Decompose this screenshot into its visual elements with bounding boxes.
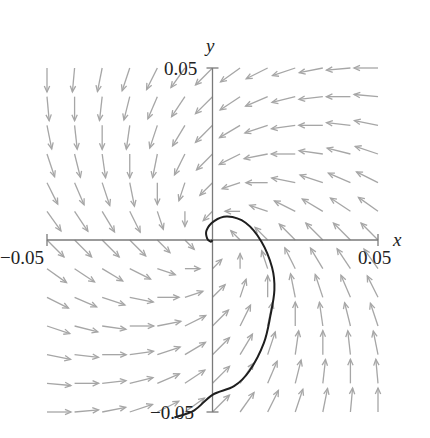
- field-arrow: [245, 125, 268, 133]
- field-arrow: [185, 370, 205, 383]
- field-arrow: [213, 366, 230, 383]
- field-arrow: [326, 94, 350, 99]
- field-arrow: [320, 331, 325, 355]
- field-arrow: [151, 154, 157, 178]
- field-arrow: [225, 209, 240, 214]
- field-arrow: [310, 248, 322, 269]
- field-arrow: [130, 349, 154, 354]
- field-arrow: [102, 269, 123, 281]
- field-arrow: [102, 326, 126, 331]
- y-axis-label: y: [204, 35, 215, 56]
- field-arrow: [157, 295, 179, 300]
- field-arrow: [47, 211, 61, 231]
- field-arrow: [70, 68, 75, 92]
- field-arrow: [75, 240, 92, 257]
- field-arrow: [130, 376, 153, 383]
- field-arrow: [123, 97, 130, 120]
- field-arrow: [299, 149, 323, 154]
- field-arrow: [47, 269, 67, 283]
- field-arrow: [47, 297, 68, 308]
- field-arrow: [213, 310, 229, 326]
- field-arrow: [295, 360, 302, 383]
- field-arrow: [322, 359, 327, 383]
- field-arrow: [306, 223, 323, 240]
- field-arrow: [47, 183, 58, 204]
- field-arrow: [357, 172, 378, 183]
- field-arrow: [102, 297, 125, 305]
- field-arrow: [44, 68, 49, 92]
- field-arrow: [271, 125, 295, 130]
- field-arrow: [221, 68, 241, 82]
- field-arrow: [130, 269, 151, 279]
- field-arrow: [272, 97, 295, 104]
- field-arrow: [196, 97, 213, 114]
- field-arrow: [102, 211, 114, 232]
- field-arrow: [178, 183, 185, 201]
- field-arrow: [358, 197, 378, 211]
- field-arrow: [315, 275, 323, 298]
- field-arrow: [185, 316, 206, 326]
- field-arrow: [219, 154, 240, 164]
- field-arrow: [295, 331, 300, 355]
- field-arrow: [246, 97, 268, 107]
- field-arrow: [250, 205, 268, 212]
- field-arrow: [75, 211, 88, 231]
- field-arrow: [174, 154, 184, 175]
- field-arrow: [121, 68, 129, 91]
- field-arrow: [102, 379, 126, 384]
- field-arrow: [272, 68, 295, 76]
- field-arrow: [185, 240, 194, 249]
- field-arrow: [300, 174, 323, 182]
- field-arrow: [349, 388, 354, 412]
- field-arrow: [47, 154, 55, 177]
- field-arrow: [271, 151, 295, 156]
- x-axis-label: x: [392, 229, 402, 250]
- field-arrow: [72, 97, 77, 121]
- field-arrow: [295, 389, 303, 412]
- field-arrow: [148, 97, 158, 119]
- field-arrow: [173, 125, 185, 146]
- field-arrow: [370, 303, 378, 326]
- field-arrow: [97, 97, 102, 121]
- y-tick-label-min: −0.05: [150, 402, 194, 423]
- field-arrow: [237, 254, 242, 269]
- field-arrow: [268, 361, 278, 383]
- field-arrow: [302, 199, 323, 211]
- field-arrow: [47, 125, 53, 149]
- field-arrow: [240, 279, 247, 297]
- field-arrow: [147, 68, 158, 89]
- field-arrow: [327, 67, 351, 72]
- x-tick-label-max: 0.05: [358, 247, 391, 268]
- field-arrow: [341, 275, 351, 297]
- field-arrow: [102, 183, 110, 206]
- field-arrow: [337, 249, 350, 269]
- field-arrow: [172, 97, 185, 117]
- field-arrow: [333, 223, 350, 240]
- field-arrow: [125, 125, 130, 149]
- field-arrow: [299, 96, 323, 101]
- field-arrow: [213, 395, 230, 412]
- field-arrow: [47, 326, 70, 334]
- field-arrow: [213, 338, 230, 355]
- field-arrow: [130, 183, 136, 207]
- field-arrow: [157, 374, 179, 384]
- field-arrow: [272, 176, 296, 182]
- field-arrow: [130, 323, 154, 328]
- field-arrow: [149, 125, 157, 148]
- field-arrow: [157, 320, 181, 326]
- field-arrow: [203, 211, 212, 220]
- field-arrow: [213, 285, 226, 298]
- field-arrow: [330, 198, 350, 211]
- field-arrow: [157, 346, 180, 354]
- field-arrow: [222, 183, 240, 190]
- field-arrow: [200, 183, 213, 196]
- field-arrow: [130, 297, 154, 303]
- field-arrow: [130, 211, 140, 232]
- field-arrow: [47, 355, 71, 361]
- field-arrow: [374, 359, 379, 383]
- field-arrow: [47, 240, 64, 257]
- field-arrow: [355, 146, 378, 154]
- field-arrow: [328, 173, 350, 183]
- field-arrow: [157, 240, 170, 253]
- field-arrow: [327, 121, 351, 126]
